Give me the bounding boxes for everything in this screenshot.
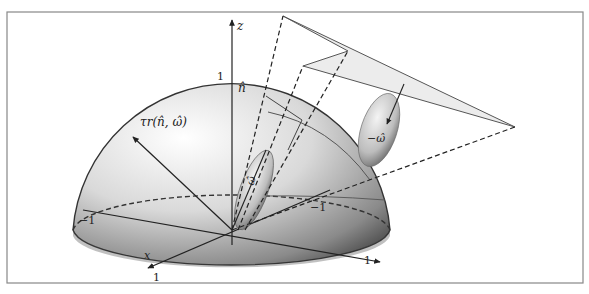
tangent-vector-label: τr(n̂, ω̂): [140, 115, 187, 129]
neg-y-tick: −1: [310, 201, 326, 214]
z-axis-label: z: [236, 19, 244, 33]
y-tick-1: 1: [364, 254, 371, 267]
normal-vector-label: n̂: [238, 81, 246, 95]
z-tick-1: 1: [217, 70, 224, 83]
neg-omega-label: −ω̂: [367, 132, 385, 145]
x-tick-1: 1: [153, 271, 160, 284]
x-axis-label: x: [144, 249, 151, 262]
neg-x-tick: −1: [79, 214, 95, 227]
hemisphere-brdf-diagram: z 1 x 1 1 −1 −1 n̂ τr(n̂, ω̂) ω̂ −ω̂: [0, 0, 589, 294]
